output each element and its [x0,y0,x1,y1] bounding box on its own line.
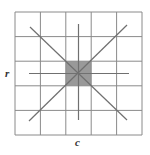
neighborhood-diagram: r c [0,0,150,155]
direction-rays [29,24,129,121]
col-label: c [75,136,80,148]
row-label: r [5,67,10,79]
